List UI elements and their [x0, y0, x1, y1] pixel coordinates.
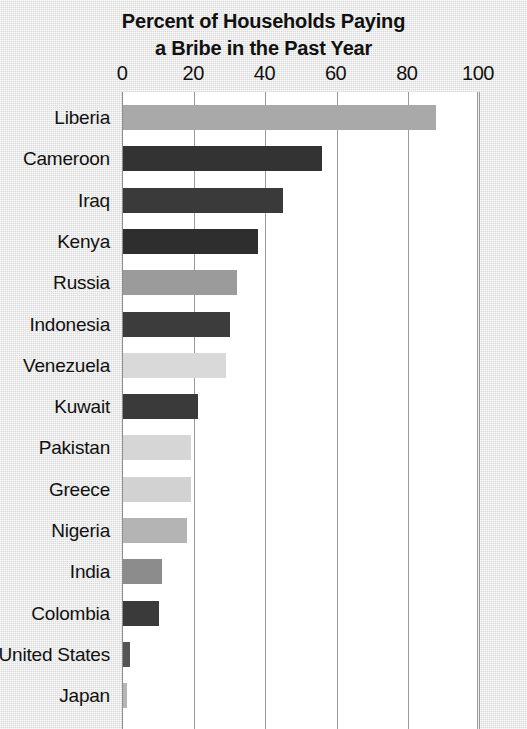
- bar-iraq: [123, 188, 283, 213]
- bar-greece: [123, 477, 191, 502]
- bar-russia: [123, 270, 237, 295]
- category-label-iraq: Iraq: [0, 188, 116, 213]
- bar-india: [123, 559, 162, 584]
- category-label-united-states: United States: [0, 642, 116, 667]
- x-tick-label-40: 40: [254, 62, 275, 85]
- bar-pakistan: [123, 435, 191, 460]
- x-tick-label-0: 0: [117, 62, 128, 85]
- chart-title-line-1: Percent of Households Paying: [122, 10, 405, 32]
- category-labels: LiberiaCameroonIraqKenyaRussiaIndonesiaV…: [0, 92, 116, 729]
- category-label-greece: Greece: [0, 477, 116, 502]
- category-label-cameroon: Cameroon: [0, 146, 116, 171]
- bar-japan: [123, 683, 127, 708]
- gridline-80: [408, 92, 409, 729]
- category-label-indonesia: Indonesia: [0, 312, 116, 337]
- x-tick-label-80: 80: [396, 62, 417, 85]
- chart-title-line-2: a Bribe in the Past Year: [0, 35, 527, 62]
- category-label-kuwait: Kuwait: [0, 394, 116, 419]
- bar-colombia: [123, 601, 159, 626]
- category-label-nigeria: Nigeria: [0, 518, 116, 543]
- x-tick-label-60: 60: [325, 62, 346, 85]
- bar-kuwait: [123, 394, 198, 419]
- bar-venezuela: [123, 353, 226, 378]
- bar-united-states: [123, 642, 130, 667]
- x-tick-label-20: 20: [183, 62, 204, 85]
- bar-nigeria: [123, 518, 187, 543]
- category-label-venezuela: Venezuela: [0, 353, 116, 378]
- chart-page: Percent of Households Paying a Bribe in …: [0, 0, 527, 729]
- category-label-kenya: Kenya: [0, 229, 116, 254]
- category-label-liberia: Liberia: [0, 105, 116, 130]
- gridline-100: [479, 92, 480, 729]
- bar-liberia: [123, 105, 436, 130]
- plot-area: [122, 92, 478, 729]
- x-axis-tick-labels: 020406080100: [0, 62, 527, 88]
- x-tick-label-100: 100: [462, 62, 494, 85]
- bar-cameroon: [123, 146, 322, 171]
- plot-right-border: [477, 92, 478, 729]
- gridline-60: [337, 92, 338, 729]
- category-label-pakistan: Pakistan: [0, 435, 116, 460]
- category-label-japan: Japan: [0, 683, 116, 708]
- chart-title: Percent of Households Paying a Bribe in …: [0, 8, 527, 62]
- category-label-india: India: [0, 559, 116, 584]
- category-label-russia: Russia: [0, 270, 116, 295]
- category-label-colombia: Colombia: [0, 601, 116, 626]
- bar-indonesia: [123, 312, 230, 337]
- bar-kenya: [123, 229, 258, 254]
